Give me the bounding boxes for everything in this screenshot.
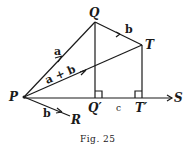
label-t: T	[145, 38, 155, 52]
label-vector-b-from-p: b	[43, 107, 51, 120]
label-s: S	[174, 91, 183, 105]
label-r: R	[70, 113, 81, 127]
label-vector-a-plus-b: a + b	[43, 62, 78, 86]
label-q: Q	[89, 6, 100, 20]
vector-addition-diagram: P Q T Q′ T′ S R a b a + b b c Fig. 25	[0, 0, 192, 147]
point-p-dot	[23, 96, 26, 99]
right-angle-t-prime-icon	[135, 91, 142, 98]
figure-caption: Fig. 25	[80, 134, 116, 144]
label-q-prime: Q′	[88, 101, 102, 115]
label-vector-b: b	[125, 23, 133, 36]
vector-b-arrowhead-icon	[116, 32, 120, 37]
label-vector-a: a	[54, 45, 61, 58]
label-segment-c: c	[116, 103, 121, 113]
right-angle-q-prime-icon	[95, 91, 102, 98]
label-t-prime: T′	[135, 101, 148, 115]
label-p: P	[8, 90, 19, 104]
